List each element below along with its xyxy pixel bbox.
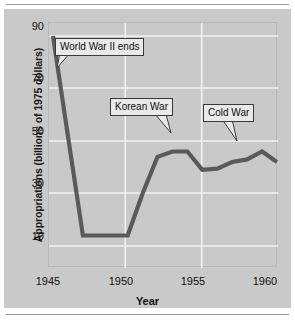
bottom-divider-rule [6,314,289,315]
x-axis-title: Year [4,295,291,307]
plot-svg [49,23,278,268]
x-tick-label-1945: 1945 [25,275,71,287]
data-line-appropriations [53,36,277,236]
y-tick-label-30: 30 [14,178,44,189]
vertical-gridlines [125,23,201,268]
annotation-world-war-ii-ends: World War II ends [55,38,144,56]
y-tick-label-10: 10 [14,231,44,242]
annotation-korean-war: Korean War [110,98,173,116]
x-tick-label-1960: 1960 [242,275,288,287]
y-tick-label-90: 90 [14,21,44,32]
y-tick-label-70: 70 [14,73,44,84]
y-axis-tick-labels: 90 70 50 30 10 [12,9,44,309]
x-tick-label-1955: 1955 [170,275,216,287]
annotation-cold-war: Cold War [203,104,254,122]
figure-frame: Appropriations (billions of 1975 dollars… [0,0,295,326]
horizontal-gridlines [49,36,278,246]
chart-panel: Appropriations (billions of 1975 dollars… [4,9,291,308]
y-tick-label-50: 50 [14,126,44,137]
x-tick-label-1950: 1950 [98,275,144,287]
plot-area [48,22,277,267]
top-divider-rule [6,4,289,5]
x-axis-tick-labels: 1945 1950 1955 1960 [4,275,291,291]
